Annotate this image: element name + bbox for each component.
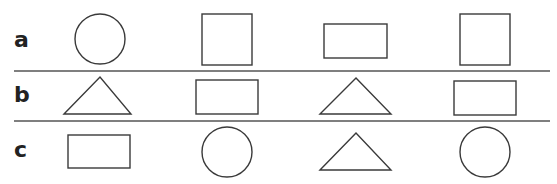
row-a-square — [202, 14, 252, 65]
row-a-rectangle — [324, 24, 387, 58]
row-c-rectangle — [68, 135, 130, 168]
row-c-triangle — [320, 133, 391, 170]
row-a-circle — [75, 14, 125, 64]
row-c-circle — [202, 127, 252, 177]
row-b-rectangle — [196, 80, 258, 114]
row-c-circle-2 — [460, 127, 510, 177]
row-b-triangle — [64, 77, 131, 114]
row-b-triangle-2 — [320, 78, 391, 114]
row-b-rectangle-2 — [454, 81, 516, 115]
shapes-diagram — [0, 0, 557, 184]
row-a-square-2 — [460, 14, 510, 65]
